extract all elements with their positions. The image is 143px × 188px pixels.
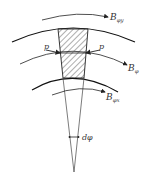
top-field-arrow [42, 14, 108, 20]
inner-boundary-arc [32, 78, 118, 92]
label-pressure-right: p [99, 42, 104, 51]
radial-line-right [74, 78, 84, 172]
hatched-segment [58, 29, 88, 78]
flux-tube-diagram: Bφy Bφ Bφx p p dφ [0, 0, 143, 188]
label-mid-field: Bφ [127, 63, 139, 75]
label-pressure-left: p [44, 42, 49, 51]
radial-line-left [63, 78, 74, 172]
label-angle: dφ [82, 133, 93, 142]
label-bottom-field: Bφx [105, 92, 120, 104]
bottom-field-arrow [52, 89, 105, 95]
label-top-field: Bφy [109, 12, 124, 24]
pressure-arrow-right [86, 50, 100, 53]
